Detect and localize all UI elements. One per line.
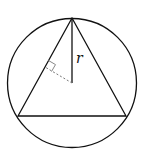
inscribed-triangle-diagram: r — [0, 0, 145, 156]
apothem-dashed-line — [45, 67, 72, 83]
right-angle-marker — [49, 61, 56, 72]
radius-label: r — [76, 50, 84, 66]
